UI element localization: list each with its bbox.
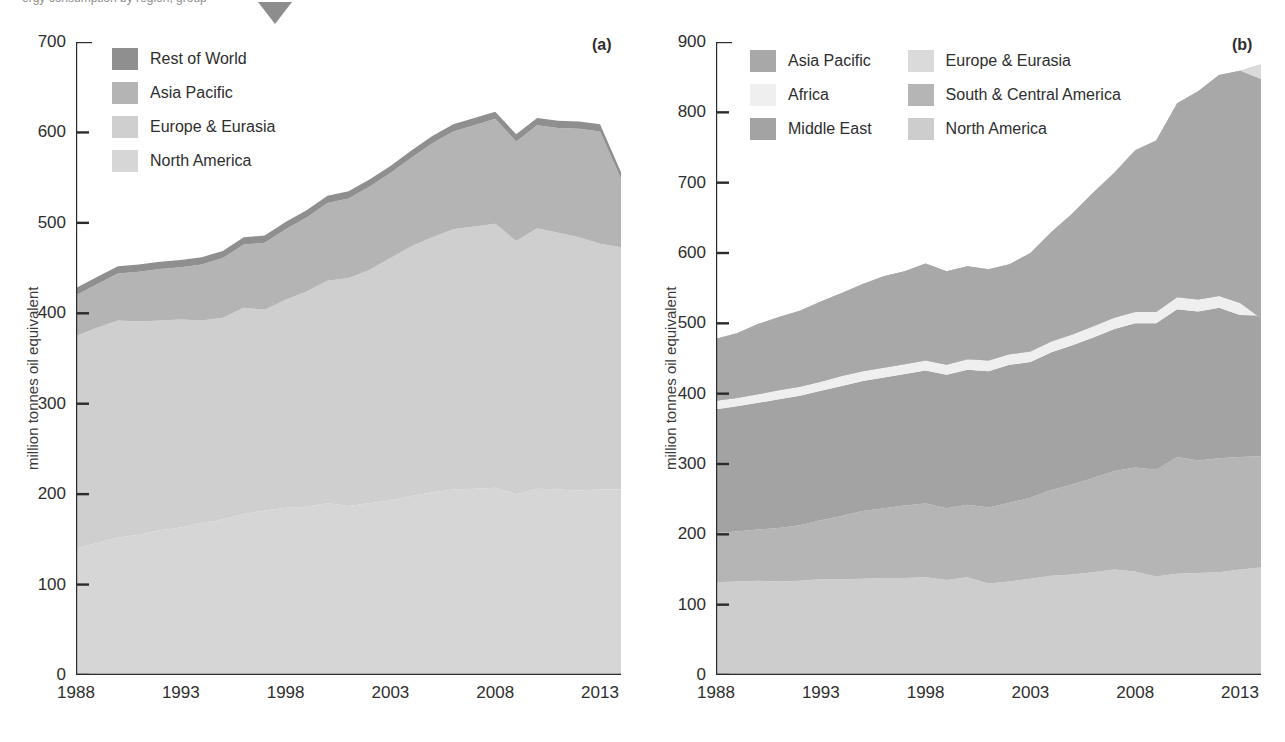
x-tick-label: 2003 — [990, 683, 1070, 703]
chart-panel-b: (b) million tonnes oil equivalent 010020… — [640, 0, 1285, 742]
legend-swatch-africa — [750, 84, 776, 106]
y-tick-label: 500 — [6, 213, 66, 233]
y-tick-label: 400 — [6, 303, 66, 323]
y-tick-label: 0 — [6, 665, 66, 685]
x-tick-label: 1993 — [781, 683, 861, 703]
x-tick-label: 1998 — [886, 683, 966, 703]
x-tick-label: 2008 — [455, 683, 535, 703]
y-tick-label: 600 — [6, 122, 66, 142]
legend-item[interactable]: Europe & Eurasia — [908, 50, 1121, 72]
y-tick-label: 100 — [6, 575, 66, 595]
x-tick-label: 2003 — [350, 683, 430, 703]
legend-item[interactable]: Middle East — [750, 118, 872, 140]
x-tick-label: 1988 — [36, 683, 116, 703]
x-tick-label: 1998 — [246, 683, 326, 703]
legend-item[interactable]: North America — [112, 150, 275, 172]
x-tick-label: 1993 — [141, 683, 221, 703]
legend-label-north-america: North America — [150, 152, 251, 170]
legend-item[interactable]: South & Central America — [908, 84, 1121, 106]
legend-label-africa: Africa — [788, 86, 829, 104]
legend-swatch-north-america — [112, 150, 138, 172]
y-tick-label: 900 — [646, 32, 706, 52]
legend-swatch-europe-eurasia — [908, 50, 934, 72]
y-tick-label: 300 — [6, 394, 66, 414]
legend-swatch-north-america — [908, 118, 934, 140]
legend-item[interactable]: Europe & Eurasia — [112, 116, 275, 138]
legend-item[interactable]: Rest of World — [112, 48, 275, 70]
legend-swatch-south-central-america — [908, 84, 934, 106]
legend-label-middle-east: Middle East — [788, 120, 872, 138]
x-tick-label: 2013 — [560, 683, 640, 703]
y-tick-label: 400 — [646, 384, 706, 404]
legend-label-south-central-america: South & Central America — [946, 86, 1121, 104]
legend-swatch-asia-pacific — [112, 82, 138, 104]
y-tick-label: 100 — [646, 595, 706, 615]
y-tick-label: 500 — [646, 313, 706, 333]
legend-label-north-america: North America — [946, 120, 1047, 138]
legend-swatch-rest-of-world — [112, 48, 138, 70]
x-tick-label: 1988 — [676, 683, 756, 703]
y-tick-label: 300 — [646, 454, 706, 474]
legend-item[interactable]: Africa — [750, 84, 872, 106]
legend-label-asia-pacific: Asia Pacific — [150, 84, 233, 102]
y-tick-label: 700 — [6, 32, 66, 52]
y-tick-label: 200 — [6, 484, 66, 504]
legend-label-europe-eurasia: Europe & Eurasia — [946, 52, 1071, 70]
panel-b-legend: Asia Pacific Europe & Eurasia Africa Sou… — [750, 50, 1121, 152]
y-tick-label: 0 — [646, 665, 706, 685]
x-tick-label: 2013 — [1200, 683, 1280, 703]
y-tick-label: 700 — [646, 173, 706, 193]
legend-label-asia-pacific: Asia Pacific — [788, 52, 871, 70]
legend-label-europe-eurasia: Europe & Eurasia — [150, 118, 275, 136]
legend-swatch-middle-east — [750, 118, 776, 140]
y-tick-label: 200 — [646, 524, 706, 544]
legend-item[interactable]: Asia Pacific — [750, 50, 872, 72]
legend-swatch-europe-eurasia — [112, 116, 138, 138]
x-tick-label: 2008 — [1095, 683, 1175, 703]
legend-item[interactable]: Asia Pacific — [112, 82, 275, 104]
legend-swatch-asia-pacific — [750, 50, 776, 72]
legend-item[interactable]: North America — [908, 118, 1121, 140]
chart-panel-a: (a) million tonnes oil equivalent 010020… — [0, 0, 645, 742]
panel-a-legend: Rest of World Asia Pacific Europe & Eura… — [112, 48, 275, 184]
y-tick-label: 600 — [646, 243, 706, 263]
y-tick-label: 800 — [646, 102, 706, 122]
legend-label-rest-of-world: Rest of World — [150, 50, 247, 68]
